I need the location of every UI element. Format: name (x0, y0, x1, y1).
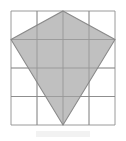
scan-smudge (36, 131, 90, 137)
figure-container (0, 0, 126, 141)
grid-figure-svg (0, 0, 126, 141)
